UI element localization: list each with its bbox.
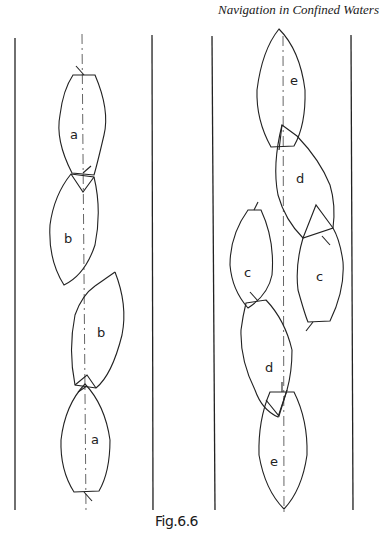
vessel-label: e <box>270 454 278 469</box>
vessel-label: b <box>64 231 72 246</box>
right-channel: e d c c d <box>212 29 353 512</box>
vessel-b-upper: b <box>50 166 98 285</box>
vessel-label: d <box>265 360 273 375</box>
channel-diagram: a b b a e <box>0 0 383 537</box>
left-channel: a b b a <box>15 34 153 512</box>
vessel-d-upper: d <box>276 125 334 245</box>
vessel-label: c <box>316 269 323 284</box>
left-centerline <box>82 34 86 512</box>
vessel-label: e <box>290 73 298 88</box>
vessel-c-upper-right: c <box>297 228 343 331</box>
left-bank-east <box>152 35 153 510</box>
right-bank-east <box>351 35 353 510</box>
vessel-b-lower: b <box>72 272 124 392</box>
right-centerline <box>283 36 284 512</box>
vessel-label: a <box>91 432 99 447</box>
vessel-c-upper-left: c <box>230 202 273 308</box>
vessel-label: d <box>296 171 304 186</box>
vessel-label: a <box>70 127 78 142</box>
figure-caption: Fig.6.6 <box>155 513 198 529</box>
vessel-label: c <box>244 265 251 280</box>
right-bank-west <box>212 36 215 510</box>
vessel-label: b <box>97 325 105 340</box>
